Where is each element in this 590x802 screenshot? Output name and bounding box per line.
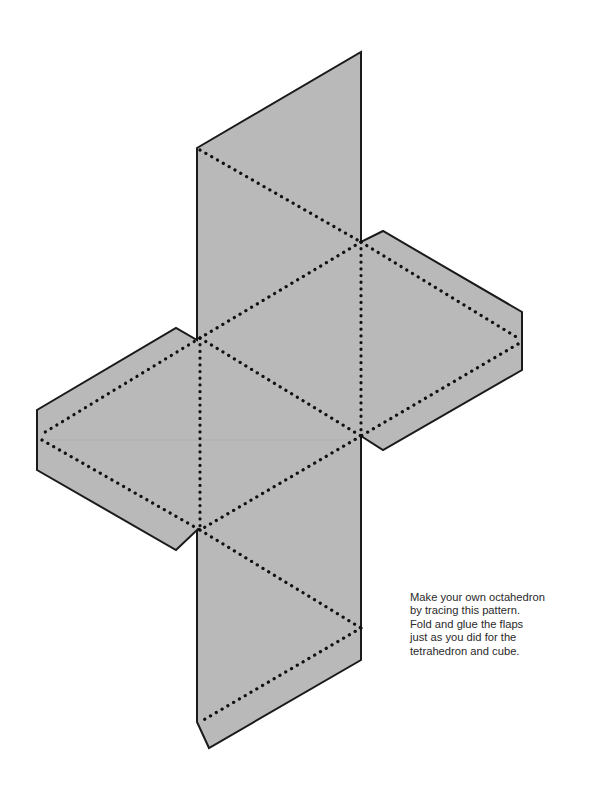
caption-line: Fold and glue the flaps [410, 618, 590, 631]
caption-line: tetrahedron and cube. [410, 645, 590, 658]
caption-line: just as you did for the [410, 631, 590, 644]
instructions-caption: Make your own octahedron by tracing this… [410, 591, 590, 658]
caption-line: Make your own octahedron [410, 591, 590, 604]
caption-line: by tracing this pattern. [410, 604, 590, 617]
octahedron-net [0, 0, 590, 802]
